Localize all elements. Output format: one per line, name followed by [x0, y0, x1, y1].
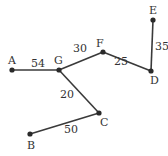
edge-weight-D-E: 35: [155, 41, 168, 52]
edge-weight-A-G: 54: [31, 58, 45, 69]
node-label-E: E: [149, 5, 157, 16]
node-F: [100, 49, 105, 54]
node-G: [56, 67, 61, 72]
edge-weight-F-D: 25: [114, 56, 128, 67]
node-D: [148, 68, 153, 73]
edge-weight-G-F: 30: [73, 43, 87, 54]
edge-D-E: [151, 20, 153, 71]
edge-weight-G-C: 20: [60, 89, 74, 100]
node-E: [150, 17, 155, 22]
edge-weight-C-B: 50: [64, 124, 78, 135]
node-label-B: B: [27, 140, 35, 151]
node-label-C: C: [100, 117, 108, 128]
node-C: [96, 110, 101, 115]
node-A: [9, 67, 14, 72]
node-label-A: A: [8, 55, 16, 66]
graph-diagram: 543025352050AGFDECB: [0, 0, 168, 156]
node-label-F: F: [96, 38, 104, 49]
node-label-G: G: [54, 55, 63, 66]
node-B: [27, 131, 32, 136]
node-label-D: D: [150, 75, 159, 86]
graph-canvas: [0, 0, 168, 156]
